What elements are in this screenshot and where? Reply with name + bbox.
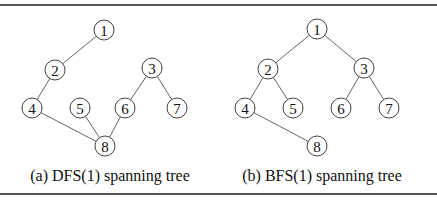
bfs-node-label-5: 5 bbox=[289, 101, 297, 117]
dfs-tree-panel: 12345678(a) DFS(1) spanning tree bbox=[22, 20, 190, 185]
dfs-node-label-5: 5 bbox=[76, 101, 84, 117]
bfs-node-label-2: 2 bbox=[264, 62, 272, 78]
dfs-node-label-8: 8 bbox=[101, 139, 109, 155]
bfs-edge-3-6 bbox=[346, 77, 359, 100]
dfs-edge-6-8 bbox=[110, 117, 121, 137]
dfs-edge-3-6 bbox=[131, 76, 147, 99]
dfs-edge-2-4 bbox=[37, 79, 50, 100]
dfs-edge-1-2 bbox=[63, 36, 97, 63]
dfs-caption: (a) DFS(1) spanning tree bbox=[30, 167, 190, 185]
bfs-node-label-4: 4 bbox=[241, 101, 249, 117]
bfs-edge-1-2 bbox=[276, 35, 310, 62]
bfs-node-label-3: 3 bbox=[360, 61, 368, 77]
dfs-node-label-2: 2 bbox=[51, 63, 59, 79]
bfs-edge-4-8 bbox=[254, 113, 308, 142]
bfs-node-label-8: 8 bbox=[313, 139, 321, 155]
dfs-edge-3-7 bbox=[157, 76, 171, 99]
bfs-node-label-7: 7 bbox=[385, 101, 393, 117]
bfs-node-label-6: 6 bbox=[337, 101, 345, 117]
bfs-caption: (b) BFS(1) spanning tree bbox=[242, 167, 402, 185]
bfs-edge-2-4 bbox=[250, 78, 263, 100]
bfs-node-label-1: 1 bbox=[313, 22, 321, 38]
dfs-node-label-3: 3 bbox=[148, 61, 156, 77]
dfs-node-label-7: 7 bbox=[173, 101, 181, 117]
bfs-edge-3-7 bbox=[369, 76, 383, 99]
dfs-node-label-1: 1 bbox=[100, 23, 108, 39]
figure-canvas: 12345678(a) DFS(1) spanning tree 1234567… bbox=[0, 0, 437, 202]
bfs-edge-2-5 bbox=[273, 77, 287, 99]
dfs-node-label-4: 4 bbox=[28, 101, 36, 117]
dfs-edge-4-8 bbox=[41, 113, 96, 142]
bfs-tree-panel: 12345678(b) BFS(1) spanning tree bbox=[235, 19, 402, 185]
dfs-edge-5-8 bbox=[85, 116, 99, 137]
bfs-edge-1-3 bbox=[325, 35, 357, 61]
dfs-node-label-6: 6 bbox=[121, 101, 129, 117]
